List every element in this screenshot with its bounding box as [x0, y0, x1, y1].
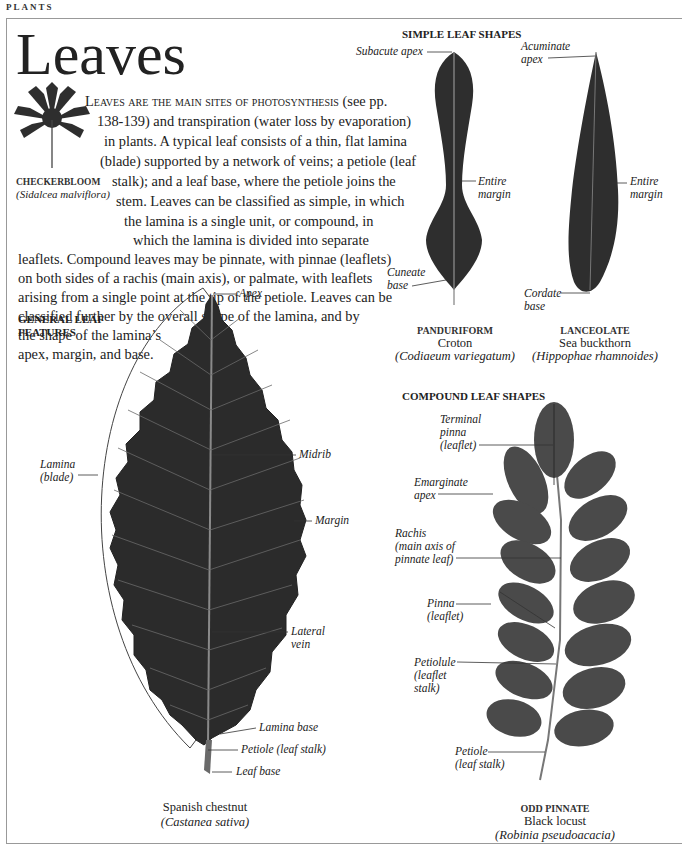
- black-locust-illustration: [0, 0, 682, 849]
- label-pinna: Pinna(leaflet): [427, 597, 463, 623]
- label-emarginate-apex: Emarginateapex: [414, 476, 468, 502]
- label-petiolule: Petiolule(leafletstalk): [414, 656, 456, 695]
- black-locust-scientific-name: (Robinia pseudoacacia): [480, 828, 630, 843]
- odd-pinnate-type: ODD PINNATE: [490, 803, 620, 814]
- label-rachis: Rachis(main axis ofpinnate leaf): [395, 527, 455, 566]
- label-compound-petiole: Petiole(leaf stalk): [455, 745, 505, 771]
- label-terminal-pinna: Terminalpinna(leaflet): [440, 413, 481, 452]
- black-locust-common-name: Black locust: [490, 814, 620, 829]
